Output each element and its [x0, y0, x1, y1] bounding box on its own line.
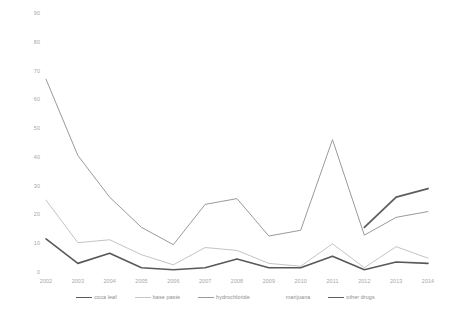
legend-swatch-icon — [268, 297, 284, 298]
series-line-hydrochloride — [46, 79, 428, 244]
chart-legend: coca leafbase pastehydrochloridemarijuan… — [0, 289, 451, 305]
legend-label: other drugs — [346, 294, 374, 300]
x-tick-label: 2012 — [351, 278, 377, 284]
legend-item-other-drugs[interactable]: other drugs — [328, 294, 374, 300]
series-line-base-paste — [46, 200, 428, 268]
legend-item-base-paste[interactable]: base paste — [135, 294, 180, 300]
line-chart: 0102030405060708090 20022003200420052006… — [0, 0, 451, 312]
x-tick-label: 2008 — [224, 278, 250, 284]
y-tick-label: 40 — [22, 154, 40, 160]
x-tick-label: 2003 — [65, 278, 91, 284]
y-tick-label: 80 — [22, 39, 40, 45]
legend-label: hydrochloride — [216, 294, 250, 300]
legend-label: marijuana — [286, 294, 311, 300]
legend-item-coca-leaf[interactable]: coca leaf — [76, 294, 116, 300]
x-tick-label: 2009 — [256, 278, 282, 284]
legend-label: base paste — [153, 294, 180, 300]
y-tick-label: 0 — [22, 269, 40, 275]
y-tick-label: 20 — [22, 211, 40, 217]
series-layer — [46, 79, 428, 270]
x-tick-label: 2005 — [129, 278, 155, 284]
y-tick-label: 70 — [22, 68, 40, 74]
legend-item-marijuana[interactable]: marijuana — [268, 294, 311, 300]
y-tick-label: 10 — [22, 240, 40, 246]
legend-label: coca leaf — [94, 294, 116, 300]
plot-area — [0, 0, 451, 312]
x-tick-label: 2013 — [383, 278, 409, 284]
series-line-other-drugs — [364, 189, 428, 228]
x-tick-label: 2004 — [97, 278, 123, 284]
y-tick-label: 90 — [22, 10, 40, 16]
x-tick-label: 2011 — [320, 278, 346, 284]
legend-swatch-icon — [328, 297, 344, 298]
legend-swatch-icon — [135, 297, 151, 298]
x-tick-label: 2002 — [33, 278, 59, 284]
legend-swatch-icon — [198, 297, 214, 298]
legend-item-hydrochloride[interactable]: hydrochloride — [198, 294, 250, 300]
y-tick-label: 60 — [22, 96, 40, 102]
series-line-coca-leaf — [46, 239, 428, 270]
y-tick-label: 50 — [22, 125, 40, 131]
y-tick-label: 30 — [22, 183, 40, 189]
x-tick-label: 2010 — [288, 278, 314, 284]
legend-swatch-icon — [76, 297, 92, 298]
x-tick-label: 2006 — [160, 278, 186, 284]
x-tick-label: 2007 — [192, 278, 218, 284]
x-tick-label: 2014 — [415, 278, 441, 284]
